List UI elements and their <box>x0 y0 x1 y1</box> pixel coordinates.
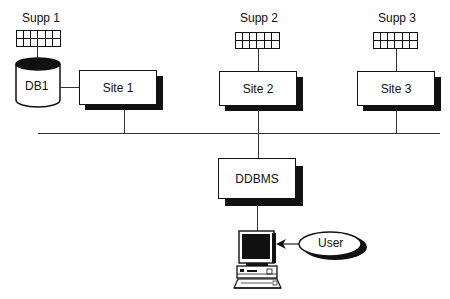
site-1-bus-connector <box>124 110 125 134</box>
supplier-1-label: Supp 1 <box>22 11 60 25</box>
supplier-2-connector <box>258 49 259 71</box>
site-3-label: Site 3 <box>381 82 412 96</box>
supplier-2-label: Supp 2 <box>240 11 278 25</box>
ddbms-label: DDBMS <box>235 172 278 186</box>
site-2-box: Site 2 <box>219 71 297 106</box>
supplier-2-table-icon <box>235 32 280 49</box>
user-label: User <box>318 236 343 250</box>
supplier-3-connector <box>396 49 397 71</box>
ddbms-to-computer-connector <box>257 206 258 231</box>
network-bus-line <box>38 133 440 134</box>
site-1-box: Site 1 <box>79 70 157 105</box>
site-3-bus-connector <box>396 111 397 134</box>
site-1-label: Site 1 <box>103 81 134 95</box>
site-2-bus-connector <box>258 111 259 158</box>
site-3-box: Site 3 <box>357 71 435 106</box>
ddbms-box: DDBMS <box>218 158 296 199</box>
supplier-3-label: Supp 3 <box>378 11 416 25</box>
db-to-site1-connector <box>60 87 80 88</box>
supplier-3-table-icon <box>373 32 418 49</box>
database-label: DB1 <box>25 79 48 93</box>
site-2-label: Site 2 <box>243 82 274 96</box>
supplier-1-table-icon <box>16 30 61 47</box>
